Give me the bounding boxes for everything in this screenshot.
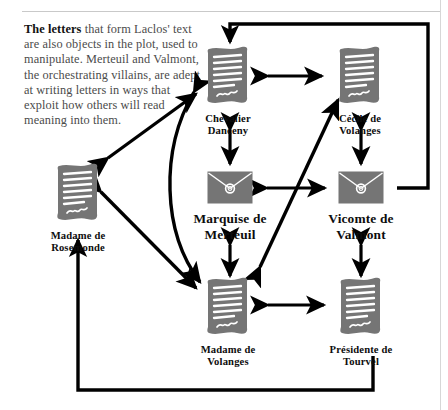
node-label: Marquise de Merteuil xyxy=(174,211,286,242)
letter-sheet-icon xyxy=(305,277,417,341)
sealed-envelope-icon xyxy=(174,171,286,208)
letter-sheet-icon xyxy=(172,46,284,110)
letter-sheet-icon xyxy=(22,163,134,227)
letter-sheet-icon xyxy=(304,46,416,110)
node-presidente-de-tourvel[interactable]: Présidente de Tourvel xyxy=(305,277,417,369)
node-label: Cécile de Volanges xyxy=(304,113,416,138)
node-chevalier-danceny[interactable]: Chevalier Danceny xyxy=(172,46,284,138)
annotation-lead: The letters xyxy=(24,22,81,36)
top-divider-rule xyxy=(22,11,440,12)
node-marquise-de-merteuil[interactable]: Marquise de Merteuil xyxy=(174,171,286,242)
letter-sheet-icon xyxy=(172,277,284,341)
node-madame-de-rosemonde[interactable]: Madame de Rosemonde xyxy=(22,163,134,255)
node-label: Présidente de Tourvel xyxy=(305,344,417,369)
node-cecile-de-volanges[interactable]: Cécile de Volanges xyxy=(304,46,416,138)
node-label: Vicomte de Valmont xyxy=(305,211,417,242)
node-label: Chevalier Danceny xyxy=(172,113,284,138)
node-vicomte-de-valmont[interactable]: Vicomte de Valmont xyxy=(305,171,417,242)
figure-root: The letters that form Laclos' text are a… xyxy=(0,0,448,410)
node-label: Madame de Rosemonde xyxy=(22,230,134,255)
right-divider-rule xyxy=(440,0,441,410)
node-madame-de-volanges[interactable]: Madame de Volanges xyxy=(172,277,284,369)
sealed-envelope-icon xyxy=(305,171,417,208)
node-label: Madame de Volanges xyxy=(172,344,284,369)
